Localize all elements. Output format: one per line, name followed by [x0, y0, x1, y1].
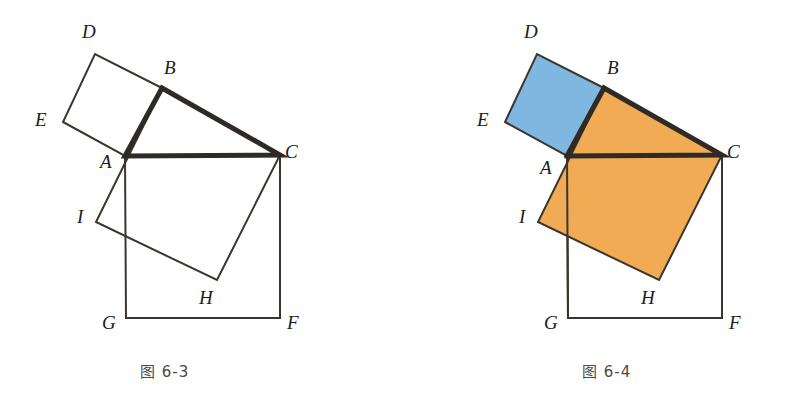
vertex-label-D-fig1: D	[82, 22, 96, 41]
vertex-label-I-fig2: I	[519, 207, 525, 226]
vertex-label-F-fig2: F	[729, 313, 741, 332]
vertex-label-D-fig2: D	[524, 22, 538, 41]
vertex-label-B-fig1: B	[164, 58, 176, 77]
square-on-leg-ab-abde-left	[63, 54, 162, 156]
vertex-label-G-fig1: G	[102, 313, 116, 332]
vertex-label-H-fig2: H	[641, 288, 655, 307]
vertex-label-F-fig1: F	[287, 313, 299, 332]
vertex-label-B-fig2: B	[607, 58, 619, 77]
figure-6-4-group	[505, 54, 722, 318]
vertex-label-C-fig2: C	[727, 142, 740, 161]
vertex-label-E-fig2: E	[477, 110, 489, 129]
vertex-label-G-fig2: G	[544, 313, 558, 332]
vertex-label-E-fig1: E	[35, 110, 47, 129]
vertex-label-C-fig1: C	[285, 142, 298, 161]
vertex-label-I-fig1: I	[77, 207, 83, 226]
figure-caption-6-3: 图 6-3	[140, 360, 189, 381]
figure-6-3-group	[63, 54, 280, 318]
vertex-label-A-fig2: A	[540, 158, 552, 177]
geometry-canvas	[0, 0, 793, 411]
vertex-label-A-fig1: A	[100, 152, 112, 171]
figure-board: A B C D E F G H I A B C D E F G H I 图 6-…	[0, 0, 793, 411]
figure-caption-6-4: 图 6-4	[582, 360, 631, 381]
vertex-label-H-fig1: H	[199, 288, 213, 307]
